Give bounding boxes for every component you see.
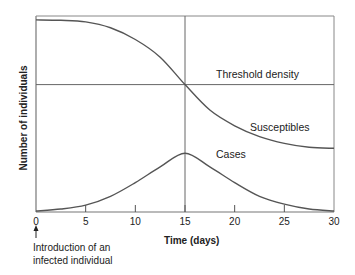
x-tick-label: 30: [328, 216, 340, 227]
x-tick-label: 10: [130, 216, 142, 227]
x-tick-label: 25: [279, 216, 291, 227]
annotation-line-1: Introduction of an: [33, 242, 110, 253]
x-ticks: 051015202530: [33, 205, 340, 227]
y-axis-title: Number of individuals: [18, 65, 29, 170]
x-tick-label: 0: [33, 216, 39, 227]
reference-lines: [36, 16, 334, 212]
threshold-label: Threshold density: [216, 68, 300, 80]
susceptibles-label: Susceptibles: [250, 121, 310, 133]
introduction-annotation: Introduction of an infected individual: [33, 225, 113, 266]
cases-label: Cases: [216, 148, 246, 160]
x-axis-title: Time (days): [164, 235, 219, 246]
epidemic-threshold-chart: 051015202530 Threshold density Susceptib…: [0, 0, 355, 275]
x-tick-label: 20: [229, 216, 241, 227]
annotation-line-2: infected individual: [33, 255, 113, 266]
x-tick-label: 15: [179, 216, 191, 227]
x-tick-label: 5: [83, 216, 89, 227]
